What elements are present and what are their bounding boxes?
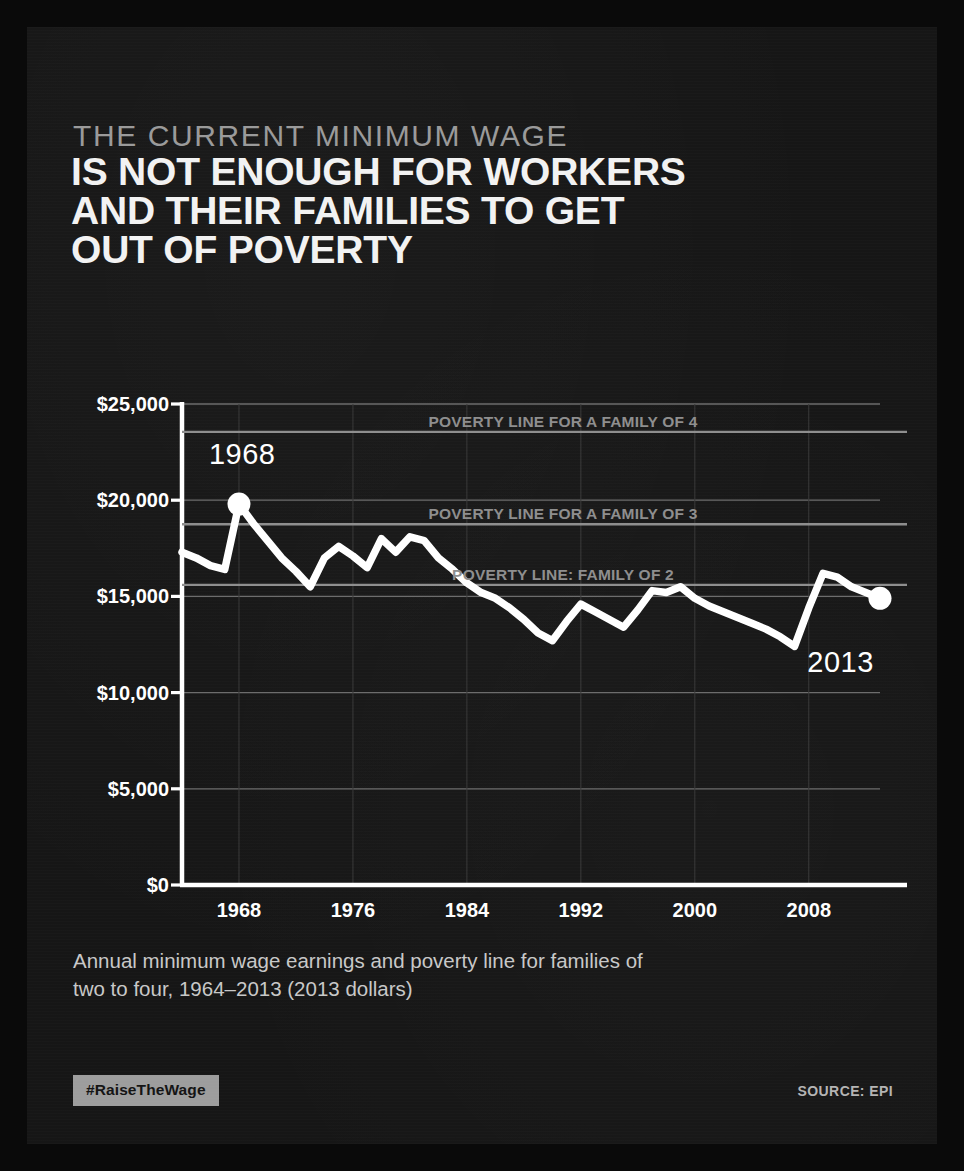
poverty-line-label: POVERTY LINE: FAMILY OF 2 <box>452 566 674 584</box>
data-point-marker <box>227 493 250 516</box>
x-axis-tick-label: 2008 <box>787 899 832 922</box>
source-credit: SOURCE: EPI <box>798 1083 893 1099</box>
poverty-line-label: POVERTY LINE FOR A FAMILY OF 4 <box>429 413 698 431</box>
y-axis-tick-label: $25,000 <box>97 393 169 416</box>
y-axis-tick-label: $5,000 <box>108 777 169 800</box>
infographic-poster: THE CURRENT MINIMUM WAGE IS NOT ENOUGH F… <box>27 27 937 1144</box>
y-axis-tick-label: $15,000 <box>97 585 169 608</box>
chart-caption: Annual minimum wage earnings and poverty… <box>73 947 863 1003</box>
y-axis-tick-label: $0 <box>147 874 169 897</box>
hashtag-badge[interactable]: #RaiseTheWage <box>73 1075 219 1106</box>
x-axis-tick-label: 1984 <box>445 899 490 922</box>
y-axis-tick-label: $20,000 <box>97 489 169 512</box>
x-axis-tick-label: 1968 <box>217 899 262 922</box>
chart-annotation: 1968 <box>209 438 276 471</box>
x-axis-tick-label: 2000 <box>673 899 718 922</box>
x-axis-tick-label: 1976 <box>331 899 376 922</box>
caption-line-2: two to four, 1964–2013 (2013 dollars) <box>73 975 863 1003</box>
chart-annotation: 2013 <box>807 646 874 679</box>
x-axis-tick-label: 1992 <box>559 899 604 922</box>
caption-line-1: Annual minimum wage earnings and poverty… <box>73 947 863 975</box>
poverty-line-label: POVERTY LINE FOR A FAMILY OF 3 <box>429 505 698 523</box>
y-axis-tick-label: $10,000 <box>97 681 169 704</box>
data-point-marker <box>869 587 892 610</box>
